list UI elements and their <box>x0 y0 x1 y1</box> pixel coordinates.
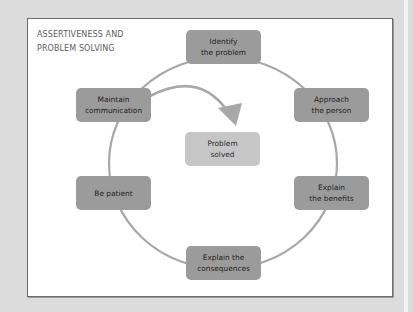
center-label-line: Problem <box>207 138 237 149</box>
center-problem-solved: Problem solved <box>185 132 260 166</box>
step-explain-the-benefits: Explain the benefits <box>294 176 369 210</box>
step-label-line: Explain the <box>203 252 245 263</box>
center-label-line: solved <box>210 149 234 160</box>
arrow-head-icon <box>218 103 242 126</box>
step-label-line: the person <box>312 105 352 116</box>
step-approach-the-person: Approach the person <box>294 88 369 122</box>
step-label-line: Approach <box>314 94 349 105</box>
arrow-shaft <box>150 86 228 112</box>
step-label-line: the benefits <box>309 193 353 204</box>
step-label-line: Explain <box>318 182 345 193</box>
step-be-patient: Be patient <box>76 176 151 210</box>
step-label-line: consequences <box>197 263 250 274</box>
step-identify-the-problem: Identify the problem <box>186 30 261 64</box>
step-label-line: the problem <box>201 47 246 58</box>
step-maintain-communication: Maintain communication <box>76 88 151 122</box>
step-explain-the-consequences: Explain the consequences <box>186 246 261 280</box>
step-label-line: Identify <box>210 36 238 47</box>
step-label-line: Be patient <box>94 188 132 199</box>
step-label-line: communication <box>85 105 142 116</box>
step-label-line: Maintain <box>98 94 130 105</box>
